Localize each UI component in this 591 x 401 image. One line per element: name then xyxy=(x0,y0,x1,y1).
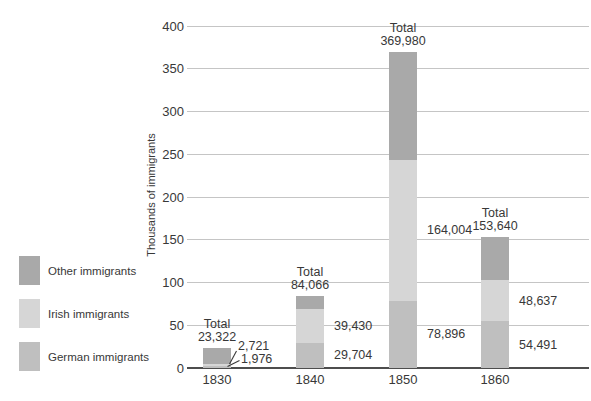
callout-leader-lines xyxy=(0,0,591,401)
immigration-stacked-bar-chart: Other immigrants Irish immigrants German… xyxy=(0,0,591,401)
